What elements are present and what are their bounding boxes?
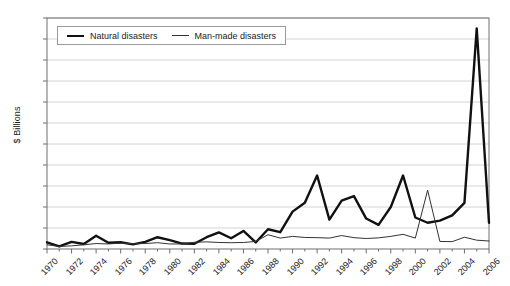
chart-legend: Natural disasters Man-made disasters [57, 26, 286, 45]
legend-swatch-natural-icon [67, 35, 84, 37]
legend-item-natural-disasters: Natural disasters [67, 31, 158, 41]
chart-container: $ Billions 0102030405060708090100110 197… [0, 0, 510, 286]
legend-item-manmade-disasters: Man-made disasters [172, 31, 277, 41]
legend-swatch-manmade-icon [172, 35, 189, 36]
legend-label-manmade: Man-made disasters [195, 31, 277, 41]
legend-label-natural: Natural disasters [90, 31, 158, 41]
